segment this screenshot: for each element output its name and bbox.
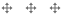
drag-handle-row [0,0,64,16]
drag-handle-2[interactable] [25,2,37,14]
move-icon [1,2,13,14]
drag-handle-3[interactable] [49,2,61,14]
move-icon [49,2,61,14]
drag-handle-1[interactable] [1,2,13,14]
move-icon [25,2,37,14]
